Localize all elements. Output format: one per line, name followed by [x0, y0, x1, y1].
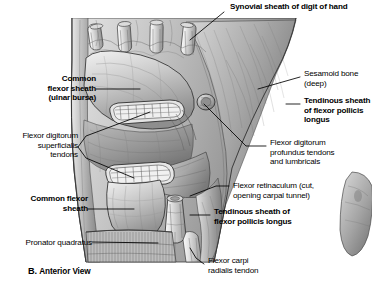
label-flexor-digitorum-superficialis-tendons: Flexor digitorum superficialis tendons: [0, 131, 78, 160]
label-flexor-digitorum-profundus-lumbricals: Flexor digitorum profundus tendons and l…: [270, 138, 372, 167]
sesamoid-bone: [197, 94, 215, 110]
flexor-sheath-cut-window-upper: [110, 100, 185, 124]
label-tendinous-sheath-fpl-upper: Tendinous sheath of flexor pollicis long…: [304, 96, 372, 125]
label-flexor-carpi-radialis-tendon: Flexor carpi radialis tendon: [208, 256, 288, 275]
tendon-stump-3: [150, 20, 164, 53]
caption-letter: B.: [28, 266, 37, 276]
caption-text: Anterior View: [39, 267, 90, 276]
tendon-stump-4: [117, 21, 132, 52]
label-pronator-quadratus: Pronator quadratus: [4, 238, 92, 248]
label-common-flexor-sheath: Common flexor sheath: [4, 194, 88, 213]
label-sesamoid-bone-deep: Sesamoid bone (deep): [304, 69, 372, 88]
caption-text-wrap: Anterior View: [37, 267, 91, 276]
label-synovial-sheath-of-digit: Synovial sheath of digit of hand: [230, 2, 348, 12]
figure-caption: B. Anterior View: [28, 266, 91, 276]
pronator-quadratus: [86, 230, 176, 262]
label-flexor-retinaculum: Flexor retinaculum (cut, opening carpal …: [233, 181, 372, 200]
label-tendinous-sheath-fpl-lower: Tendinous sheath of flexor pollicis long…: [214, 207, 334, 226]
label-common-flexor-sheath-ulnar-bursa: Common flexor sheath (ulnar bursa): [6, 74, 96, 103]
